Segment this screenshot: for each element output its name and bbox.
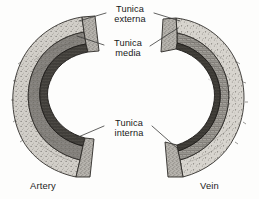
caption-artery: Artery bbox=[30, 180, 56, 191]
label-tunica-externa-line2: externa bbox=[104, 14, 156, 24]
leader-interna-artery bbox=[76, 126, 104, 138]
vein-cross-section bbox=[161, 18, 248, 177]
label-tunica-media-line2: media bbox=[104, 48, 152, 58]
vessel-cross-sections bbox=[0, 0, 259, 199]
label-tunica-media-line1: Tunica bbox=[104, 38, 152, 48]
label-tunica-interna-line2: interna bbox=[104, 128, 154, 138]
artery-cross-section bbox=[11, 16, 99, 177]
label-tunica-externa-line1: Tunica bbox=[104, 4, 156, 14]
leader-interna-vein bbox=[152, 126, 177, 148]
label-tunica-interna: Tunica interna bbox=[104, 118, 154, 139]
label-tunica-interna-line1: Tunica bbox=[104, 118, 154, 128]
caption-vein: Vein bbox=[200, 180, 219, 191]
label-tunica-media: Tunica media bbox=[104, 38, 152, 59]
vein-cut-end-top bbox=[161, 18, 177, 52]
label-tunica-externa: Tunica externa bbox=[104, 4, 156, 25]
histology-figure: Tunica externa Tunica media Tunica inter… bbox=[0, 0, 259, 199]
